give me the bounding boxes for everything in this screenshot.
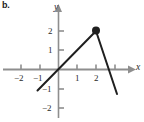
curve-rising-segment: [38, 31, 97, 91]
curve-falling-segment: [96, 31, 117, 94]
y-tick-label-1: 1: [48, 45, 53, 55]
x-axis-label: x: [136, 62, 140, 72]
vertex-point-marker: [92, 27, 100, 35]
y-tick-label-2: 2: [48, 26, 53, 36]
figure-panel: b. −2 −1 1: [0, 0, 144, 122]
y-tick-label-minus1: −1: [42, 84, 52, 94]
y-axis-label: y: [54, 2, 58, 12]
y-tick-label-minus2: −2: [42, 103, 52, 113]
x-tick-label-1: 1: [75, 73, 80, 83]
graph-plot: [0, 0, 144, 122]
x-tick-label-minus2: −2: [14, 73, 24, 83]
x-axis-arrowhead: [128, 66, 136, 74]
x-tick-label-minus1: −1: [33, 73, 43, 83]
x-tick-label-2: 2: [94, 73, 99, 83]
